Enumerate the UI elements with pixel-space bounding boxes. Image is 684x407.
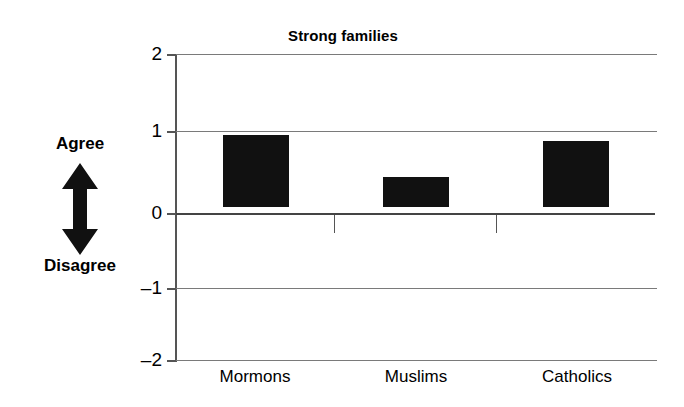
y-tick-label-neg1: –1 xyxy=(118,278,162,297)
gridline-1 xyxy=(175,131,657,132)
y-tick-label-0: 0 xyxy=(118,203,162,222)
y-tick-label-neg2: –2 xyxy=(118,350,162,369)
gridline-neg1 xyxy=(175,288,657,289)
bar-muslims xyxy=(383,177,449,208)
chart-title: Strong families xyxy=(243,27,443,44)
bar-mormons xyxy=(223,135,289,208)
y-tick-mark-1 xyxy=(167,131,176,133)
x-tick-divider-2 xyxy=(496,215,497,233)
gridline-2 xyxy=(175,54,657,55)
x-label-muslims: Muslims xyxy=(337,367,495,387)
x-label-catholics: Catholics xyxy=(498,367,656,387)
double-headed-arrow-icon xyxy=(60,163,100,255)
bar-chart-figure: Strong families 2 1 0 –1 –2 Mormons Musl… xyxy=(0,0,684,407)
plot-area xyxy=(175,54,657,361)
x-tick-divider-1 xyxy=(334,215,335,233)
y-tick-mark-0 xyxy=(167,213,176,215)
x-label-mormons: Mormons xyxy=(176,367,334,387)
gridline-neg2 xyxy=(175,360,657,361)
y-tick-mark-neg1 xyxy=(167,288,176,290)
bar-catholics xyxy=(543,141,609,208)
zero-axis-line xyxy=(175,213,655,215)
y-tick-mark-2 xyxy=(167,54,176,56)
y-tick-mark-neg2 xyxy=(167,360,176,362)
y-tick-label-2: 2 xyxy=(118,44,162,63)
disagree-label: Disagree xyxy=(4,256,156,276)
agree-label: Agree xyxy=(10,134,150,154)
